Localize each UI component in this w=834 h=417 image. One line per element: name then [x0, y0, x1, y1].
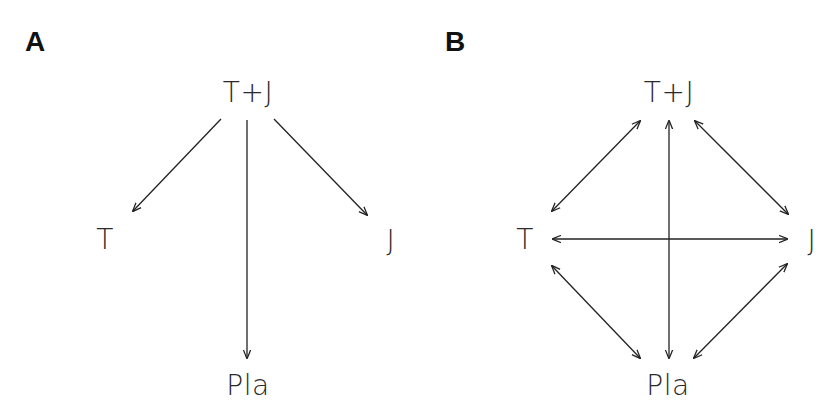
node-j: J — [808, 227, 817, 255]
node-t-plus-j: T+J — [644, 79, 694, 107]
panel-b: B T+J T J Pla — [417, 0, 834, 417]
node-pla: Pla — [646, 372, 689, 400]
edge-tj-to-j — [274, 119, 367, 215]
node-pla: Pla — [226, 372, 269, 400]
edge-t-pla — [552, 266, 640, 358]
node-t: T — [96, 226, 114, 254]
panel-a-edges — [0, 0, 417, 417]
edge-tj-to-t — [133, 119, 221, 211]
edge-tj-t — [552, 121, 640, 211]
panel-b-edges — [417, 0, 834, 417]
edge-j-pla — [694, 264, 787, 358]
node-j: J — [387, 227, 396, 255]
node-t-plus-j: T+J — [223, 79, 273, 107]
panel-a: A T+J T J Pla — [0, 0, 417, 417]
node-t: T — [516, 226, 534, 254]
edge-tj-j — [695, 121, 788, 214]
